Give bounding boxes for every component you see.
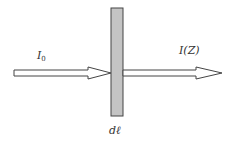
thickness-label: dℓ xyxy=(109,125,121,136)
transmitted-intensity-label: I(Z) xyxy=(179,45,200,56)
incident-beam-arrow xyxy=(14,67,111,79)
diagram-canvas: I0 I(Z) dℓ xyxy=(0,0,232,148)
transmitted-beam-arrow xyxy=(123,67,222,79)
absorbing-slab xyxy=(111,8,123,116)
incident-intensity-label: I0 xyxy=(37,50,46,63)
